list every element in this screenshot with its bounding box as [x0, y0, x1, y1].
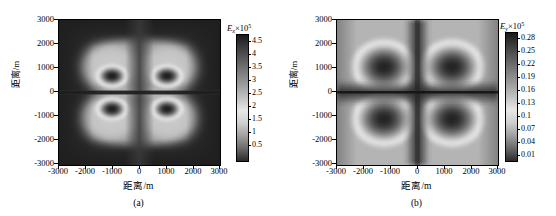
colorbar-tick-b [517, 116, 520, 117]
ytick-mark-a [54, 67, 58, 68]
colorbar-label-b: 0.01 [521, 151, 535, 159]
colorbar-tick-a [248, 106, 251, 107]
figure-root: 3000 2000 1000 0 -1000 -2000 -3000 -3000… [0, 0, 556, 216]
heatmap-a [59, 20, 220, 165]
ytick-mark-a [54, 139, 58, 140]
ytick-mark-b [332, 163, 336, 164]
panel-a: 3000 2000 1000 0 -1000 -2000 -3000 -3000… [0, 0, 278, 216]
x-axis-title-b: 距离/m [336, 181, 497, 191]
plot-area-a [58, 19, 221, 166]
colorbar-label-a: 3.5 [252, 63, 262, 71]
colorbar-label-b: 0.07 [521, 125, 535, 133]
colorbar-label-a: 0.5 [252, 141, 262, 149]
colorbar-tick-b [517, 103, 520, 104]
colorbar-tick-b [517, 77, 520, 78]
ytick-label-a: -2000 [10, 135, 54, 144]
ytick-label-a: 3000 [10, 15, 54, 24]
x-axis-title-a: 距离/m [58, 181, 219, 191]
ytick-label-b: 3000 [288, 15, 332, 24]
colorbar-tick-b [517, 38, 520, 39]
colorbar-label-a: 2.5 [252, 89, 262, 97]
ytick-mark-b [332, 67, 336, 68]
ytick-mark-b [332, 139, 336, 140]
colorbar-label-b: 0.28 [521, 34, 535, 42]
colorbar-tick-b [517, 142, 520, 143]
colorbar-tick-b [517, 64, 520, 65]
colorbar-tick-a [248, 93, 251, 94]
colorbar-tick-a [248, 54, 251, 55]
colorbar-tick-a [248, 80, 251, 81]
colorbar-tick-a [248, 132, 251, 133]
colorbar-tick-b [517, 129, 520, 130]
colorbar-label-a: 4.5 [252, 37, 262, 45]
heatmap-b [337, 20, 498, 165]
colorbar-tick-a [248, 41, 251, 42]
colorbar-label-b: 0.25 [521, 47, 535, 55]
ytick-mark-a [54, 19, 58, 20]
y-axis-title-b: 距离/m [290, 45, 299, 105]
ytick-label-b: -1000 [288, 111, 332, 120]
colorbar-label-a: 4 [252, 50, 256, 58]
colorbar-label-b: 0.19 [521, 73, 535, 81]
colorbar-gradient-a [237, 35, 248, 161]
colorbar-label-b: 0.1 [521, 112, 531, 120]
colorbar-tick-b [517, 155, 520, 156]
colorbar-tick-b [517, 51, 520, 52]
panel-caption-a: (a) [58, 198, 219, 208]
ytick-mark-a [54, 163, 58, 164]
colorbar-gradient-b [506, 33, 517, 161]
colorbar-exponent-a: 5 [248, 23, 251, 29]
colorbar-tick-b [517, 90, 520, 91]
colorbar-label-b: 0.13 [521, 99, 535, 107]
colorbar-scale-a: ×10 [235, 23, 248, 33]
colorbar-label-a: 2 [252, 102, 256, 110]
panel-b: 3000 2000 1000 0 -1000 -2000 -3000 -3000… [278, 0, 556, 216]
ytick-mark-a [54, 43, 58, 44]
colorbar-label-a: 1 [252, 128, 256, 136]
ytick-label-b: -2000 [288, 135, 332, 144]
colorbar-scale-b: ×10 [508, 21, 521, 31]
ytick-mark-a [54, 91, 58, 92]
plot-area-b [336, 19, 499, 166]
colorbar-label-b: 0.16 [521, 86, 535, 94]
panel-caption-b: (b) [336, 198, 497, 208]
ytick-mark-b [332, 43, 336, 44]
colorbar-label-a: 1.5 [252, 115, 262, 123]
colorbar-exponent-b: 5 [521, 21, 524, 27]
colorbar-tick-a [248, 119, 251, 120]
y-axis-title-a: 距离/m [12, 45, 21, 105]
ytick-mark-a [54, 115, 58, 116]
xtick-label-b: 3000 [477, 167, 517, 176]
colorbar-label-b: 0.22 [521, 60, 535, 68]
xtick-label-a: 3000 [199, 167, 239, 176]
colorbar-tick-a [248, 145, 251, 146]
ytick-mark-b [332, 91, 336, 92]
ytick-mark-b [332, 19, 336, 20]
ytick-label-a: -1000 [10, 111, 54, 120]
colorbar-label-a: 3 [252, 76, 256, 84]
colorbar-tick-a [248, 67, 251, 68]
colorbar-label-b: 0.04 [521, 138, 535, 146]
ytick-mark-b [332, 115, 336, 116]
